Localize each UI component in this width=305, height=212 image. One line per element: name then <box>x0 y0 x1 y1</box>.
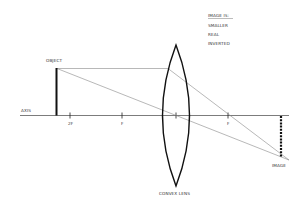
f-right-label: F <box>227 121 230 126</box>
object-label: OBJECT <box>46 58 62 63</box>
f-left-label: F <box>121 121 124 126</box>
axis-label: AXIS <box>21 108 31 113</box>
two-f-label: 2F <box>68 121 74 126</box>
info-item-smaller: SMALLER <box>208 23 228 28</box>
info-item-real: REAL <box>208 32 220 37</box>
ray-central <box>57 69 289 161</box>
lens-label: CONVEX LENS <box>159 191 190 196</box>
info-item-inverted: INVERTED <box>208 41 230 46</box>
ray-diagram: OBJECT AXIS 2F F F IMAGE CONVEX LENS IMA… <box>0 0 305 212</box>
info-heading: IMAGE IS: <box>208 13 229 18</box>
image-label: IMAGE <box>272 163 286 168</box>
